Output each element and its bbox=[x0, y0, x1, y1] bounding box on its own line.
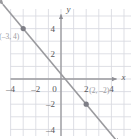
graph-background bbox=[0, 0, 134, 139]
x-tick-label: 0 bbox=[52, 84, 57, 94]
x-tick-label: 2 bbox=[84, 84, 89, 94]
data-point-marker bbox=[21, 26, 26, 31]
x-tick-label: –2 bbox=[30, 84, 40, 94]
y-tick-label: 4 bbox=[51, 24, 56, 34]
y-tick-label: 2 bbox=[51, 49, 56, 59]
y-tick-label: –2 bbox=[45, 99, 55, 109]
y-axis-label: y bbox=[66, 4, 71, 14]
graph-canvas: –4–202442–2–4 (–3, 4)(2, –2) x y bbox=[0, 0, 134, 139]
coordinate-plane-graph: –4–202442–2–4 (–3, 4)(2, –2) x y bbox=[0, 0, 134, 139]
x-tick-label: –4 bbox=[5, 84, 16, 94]
data-point-marker bbox=[84, 102, 89, 107]
x-axis-label: x bbox=[121, 72, 126, 82]
y-tick-label: –4 bbox=[45, 125, 56, 135]
data-point-label: (–3, 4) bbox=[0, 32, 20, 41]
x-tick-label: 4 bbox=[109, 84, 114, 94]
data-point-label: (2, –2) bbox=[89, 86, 109, 95]
